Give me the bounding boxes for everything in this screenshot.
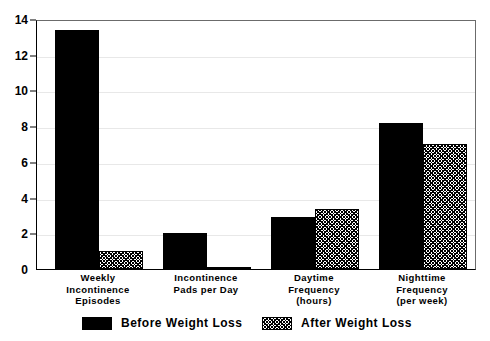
category-label-daytime-frequency: Daytime Frequency (hours) [260, 272, 368, 307]
category-label-line: (per week) [368, 295, 476, 307]
y-tick-label: 10 [15, 84, 28, 98]
plot-area [36, 20, 476, 270]
bar-after-weight-loss[interactable] [423, 144, 467, 269]
category-label-weekly-incontinence-episodes: Weekly Incontinence Episodes [44, 272, 152, 307]
bar-after-weight-loss[interactable] [99, 251, 143, 269]
y-tick-label: 12 [15, 49, 28, 63]
y-tick-label: 6 [21, 156, 28, 170]
bar-before-weight-loss[interactable] [379, 123, 423, 269]
category-label-line: Frequency [368, 284, 476, 296]
y-tick-label: 0 [21, 263, 28, 277]
bar-before-weight-loss[interactable] [55, 30, 99, 269]
bar-group-nighttime-frequency [379, 21, 467, 269]
legend-entry-after-weight-loss[interactable]: After Weight Loss [262, 316, 412, 330]
bar-group-weekly-incontinence-episodes [55, 21, 143, 269]
category-label-line: Episodes [44, 295, 152, 307]
solid-black-swatch-icon [82, 317, 112, 330]
category-label-line: Daytime [260, 272, 368, 284]
category-label-line: Weekly [44, 272, 152, 284]
y-tick-label: 14 [15, 13, 28, 27]
category-label-line: Frequency [260, 284, 368, 296]
chart-legend: Before Weight Loss After Weight Loss [0, 316, 490, 341]
category-label-line: Pads per Day [152, 284, 260, 296]
category-label-line: Nighttime [368, 272, 476, 284]
category-label-incontinence-pads-per-day: Incontinence Pads per Day [152, 272, 260, 295]
category-label-line: Incontinence [152, 272, 260, 284]
bar-before-weight-loss[interactable] [163, 233, 207, 269]
bar-chart-figure: 14 12 10 8 6 4 2 0 [0, 0, 490, 341]
y-axis: 14 12 10 8 6 4 2 0 [0, 0, 36, 341]
hatched-swatch-icon [262, 317, 292, 330]
bar-before-weight-loss[interactable] [271, 217, 315, 269]
category-label-nighttime-frequency: Nighttime Frequency (per week) [368, 272, 476, 307]
bar-group-incontinence-pads-per-day [163, 21, 251, 269]
category-label-line: (hours) [260, 295, 368, 307]
x-axis-category-labels: Weekly Incontinence Episodes Incontinenc… [36, 272, 476, 314]
y-tick-label: 4 [21, 192, 28, 206]
bars-layer [37, 21, 475, 269]
y-tick-label: 2 [21, 227, 28, 241]
category-label-line: Incontinence [44, 284, 152, 296]
legend-entry-before-weight-loss[interactable]: Before Weight Loss [82, 316, 242, 330]
legend-label: Before Weight Loss [121, 316, 242, 330]
bar-after-weight-loss[interactable] [315, 209, 359, 269]
legend-label: After Weight Loss [301, 316, 412, 330]
bar-group-daytime-frequency [271, 21, 359, 269]
bar-after-weight-loss[interactable] [207, 267, 251, 269]
y-tick-label: 8 [21, 120, 28, 134]
